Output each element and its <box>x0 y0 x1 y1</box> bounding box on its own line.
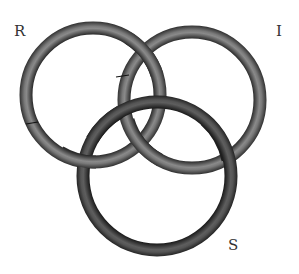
ring-s-over-i <box>205 120 228 160</box>
ring-s-over-r <box>92 112 120 140</box>
borromean-rings-diagram <box>0 0 299 274</box>
label-r: R <box>14 22 25 40</box>
label-i: I <box>276 22 282 40</box>
label-s: S <box>228 236 238 254</box>
